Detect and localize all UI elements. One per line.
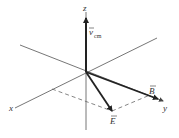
e-label: E [109,116,117,126]
z-axis-label: z [82,3,87,13]
coordinate-diagram: z x y v cm B E [0,0,179,138]
x-axis-label: x [8,103,13,113]
projection-line-x [52,89,112,111]
svg-text:E: E [109,116,116,126]
b-vector [86,72,158,99]
v-cm-label: v cm [89,27,102,39]
e-vector [86,72,112,111]
svg-text:cm: cm [94,33,102,39]
y-axis-label: y [162,103,167,113]
b-label: B [149,86,156,96]
projection-line-y [112,95,150,111]
svg-text:v: v [89,27,93,37]
svg-text:B: B [149,86,155,96]
